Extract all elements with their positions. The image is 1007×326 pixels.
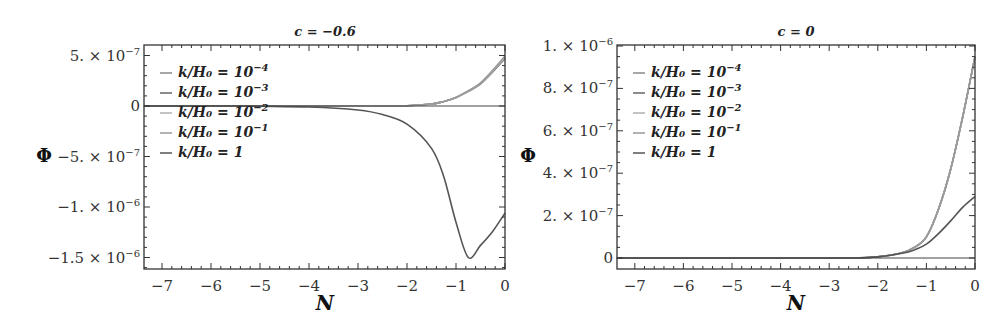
x-tick-label: −2 [867,277,889,295]
legend-entry: k/H₀ = 10−1 [651,122,741,140]
legend-entry: k/H₀ = 10−2 [651,102,742,120]
legend: k/H₀ = 10−4k/H₀ = 10−3k/H₀ = 10−2k/H₀ = … [160,62,269,160]
legend-entry: k/H₀ = 1 [651,144,716,160]
y-tick-label: 0 [603,249,613,267]
legend: k/H₀ = 10−4k/H₀ = 10−3k/H₀ = 10−2k/H₀ = … [633,62,742,160]
panel-left: c = −0.6 5. × 10−70−5. × 10−7−1. × 10−6−… [36,24,510,315]
legend-entry: k/H₀ = 10−3 [651,82,742,100]
y-tick-label: 6. × 10−7 [543,121,613,140]
y-tick-label: 1. × 10−6 [543,36,613,55]
panel-title: c = −0.6 [294,24,355,39]
panel-title: c = 0 [778,24,815,39]
y-tick-label: 8. × 10−7 [543,78,613,97]
x-tick-label: −1 [445,277,467,295]
x-tick-label: 0 [970,277,980,295]
legend-entry: k/H₀ = 10−4 [178,62,269,80]
legend-entry: k/H₀ = 10−2 [178,102,269,120]
y-tick-label: −1. × 10−6 [57,197,140,216]
legend-entry: k/H₀ = 1 [178,144,243,160]
x-tick-label: −1 [915,277,937,295]
x-tick-label: 0 [500,277,510,295]
panel-right: c = 0 1. × 10−68. × 10−76. × 10−74. × 10… [520,24,980,315]
figure: c = −0.6 5. × 10−70−5. × 10−7−1. × 10−6−… [0,0,1007,326]
x-tick-label: −6 [672,277,694,295]
x-tick-label: −7 [151,277,173,295]
x-tick-label: −5 [249,277,271,295]
legend-entry: k/H₀ = 10−4 [651,62,742,80]
series-line [617,197,975,259]
x-tick-label: −6 [200,277,222,295]
y-axis-label: Φ [520,145,536,166]
x-axis-label: N [786,291,806,315]
legend-entry: k/H₀ = 10−1 [178,122,268,140]
y-tick-label: −1.5 × 10−6 [48,248,140,267]
x-axis-label: N [315,291,335,315]
x-tick-label: −5 [721,277,743,295]
x-tick-label: −2 [396,277,418,295]
y-tick-labels: 5. × 10−70−5. × 10−7−1. × 10−6−1.5 × 10−… [48,46,140,267]
y-axis-label: Φ [36,145,52,166]
x-tick-label: −3 [347,277,369,295]
y-tick-labels: 1. × 10−68. × 10−76. × 10−74. × 10−72. ×… [543,36,613,267]
legend-entry: k/H₀ = 10−3 [178,82,269,100]
x-tick-label: −3 [818,277,840,295]
y-tick-label: 5. × 10−7 [70,46,140,65]
y-tick-label: −5. × 10−7 [57,147,140,166]
x-tick-label: −7 [624,277,646,295]
y-tick-label: 4. × 10−7 [543,163,613,182]
y-tick-label: 2. × 10−7 [543,206,613,225]
y-tick-label: 0 [130,97,140,115]
